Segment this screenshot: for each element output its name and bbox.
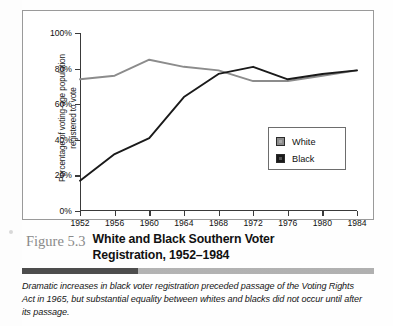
x-tick [322, 211, 323, 216]
chart-legend: White Black [268, 127, 346, 170]
figure-title-line2: Registration, 1952–1984 [93, 248, 230, 262]
y-tick [75, 104, 80, 105]
figure-number: Figure 5.3 [26, 232, 86, 250]
gutter-speck [9, 230, 13, 234]
legend-label-black: Black [292, 154, 314, 164]
x-tick-label: 1976 [278, 218, 297, 228]
figure-description: Dramatic increases in black voter regist… [22, 280, 366, 319]
x-tick [115, 211, 116, 216]
series-lines [80, 33, 357, 211]
x-tick-label: 1968 [209, 218, 228, 228]
x-tick [149, 211, 150, 216]
x-tick [357, 211, 358, 216]
y-axis-title-line2: registered to vote [68, 25, 79, 211]
plot-area: 0%20%40%60%80%100%1952195619601964196819… [80, 33, 357, 211]
x-tick-label: 1960 [140, 218, 159, 228]
y-tick [75, 69, 80, 70]
legend-item-black: Black [276, 150, 345, 167]
x-tick [253, 211, 254, 216]
x-tick [219, 211, 220, 216]
x-tick [288, 211, 289, 216]
x-tick-label: 1984 [347, 218, 366, 228]
figure-caption: Figure 5.3 White and Black Southern Vote… [22, 232, 374, 319]
x-tick-label: 1956 [105, 218, 124, 228]
figure-frame: Percentage of voting-age population regi… [22, 10, 374, 220]
y-tick-label: 60% [55, 99, 72, 109]
x-tick-label: 1980 [313, 218, 332, 228]
x-tick [184, 211, 185, 216]
y-tick-label: 20% [55, 170, 72, 180]
y-tick [75, 33, 80, 34]
y-tick-label: 40% [55, 135, 72, 145]
legend-label-white: White [292, 137, 316, 147]
x-tick [80, 211, 81, 216]
figure-title-line1: White and Black Southern Voter [93, 232, 275, 246]
caption-rule [22, 268, 374, 274]
page-gutter [0, 0, 22, 326]
x-tick-label: 1964 [174, 218, 193, 228]
figure-title: White and Black Southern Voter Registrat… [93, 232, 275, 263]
series-line-white [80, 60, 357, 81]
y-tick [75, 140, 80, 141]
y-axis-title-line1: Percentage of voting-age population [57, 25, 68, 211]
x-tick-label: 1952 [70, 218, 89, 228]
y-tick [75, 175, 80, 176]
y-tick-label: 80% [55, 64, 72, 74]
y-tick-label: 0% [60, 206, 72, 216]
legend-swatch-black [276, 154, 285, 163]
legend-swatch-white [276, 137, 285, 146]
legend-item-white: White [276, 133, 345, 150]
y-tick-label: 100% [50, 28, 72, 38]
x-tick-label: 1972 [244, 218, 263, 228]
caption-title-row: Figure 5.3 White and Black Southern Vote… [22, 232, 374, 263]
